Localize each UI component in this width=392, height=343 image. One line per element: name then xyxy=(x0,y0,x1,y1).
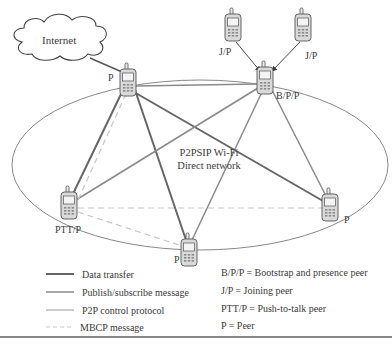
definition-bpp: B/P/P = Bootstrap and presence peer xyxy=(221,267,368,278)
node-label-p-bottom: P xyxy=(174,254,180,265)
phone-icon-p-top-left xyxy=(120,63,136,96)
legend-item-mbcp: MBCP message xyxy=(80,320,144,334)
node-label-jp-right: J/P xyxy=(305,50,317,61)
definition-jp: J/P = Joining peer xyxy=(221,285,293,296)
internet-label: Internet xyxy=(42,34,76,46)
phone-icon-p-bottom xyxy=(181,233,197,266)
phone-icon-jp-left xyxy=(225,8,241,41)
definition-ptt: PTT/P = Push-to-talk peer xyxy=(221,303,326,314)
phone-icon-jp-right xyxy=(295,8,311,41)
bottom-divider xyxy=(0,336,392,338)
legend-item-p2p: P2P control protocol xyxy=(82,303,164,317)
legend-label: MBCP message xyxy=(80,322,144,333)
node-label-jp-left: J/P xyxy=(219,46,231,57)
phone-icon-bpp xyxy=(257,61,273,94)
legend-label: Publish/subscribe message xyxy=(82,287,189,298)
node-label-bpp: B/P/P xyxy=(276,90,299,101)
legend-item-publish: Publish/subscribe message xyxy=(82,285,189,299)
network-label: P2PSIP Wi-Fi Direct network xyxy=(168,146,250,172)
network-label-line2: Direct network xyxy=(168,159,250,172)
legend-item-data-transfer: Data transfer xyxy=(82,267,134,281)
network-label-line1: P2PSIP Wi-Fi xyxy=(168,146,250,159)
node-label-ptt: PTT/P xyxy=(55,224,81,235)
node-label-p-right: P xyxy=(344,214,350,225)
definition-p: P = Peer xyxy=(221,320,255,331)
node-label-p-top-left: P xyxy=(108,72,114,83)
legend-label: Data transfer xyxy=(82,269,134,280)
legend-label: P2P control protocol xyxy=(82,305,164,316)
